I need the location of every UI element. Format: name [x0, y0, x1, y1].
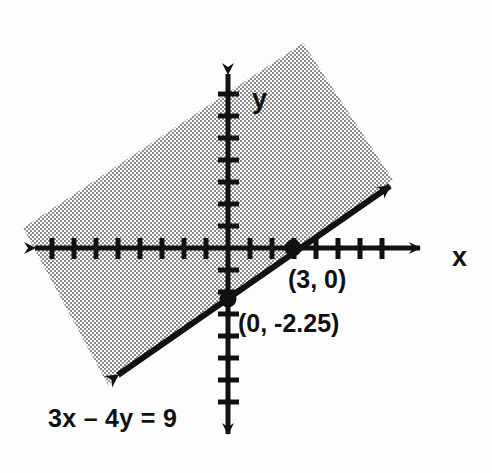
y-intercept-label: (0, -2.25): [238, 309, 339, 337]
equation-label: 3x – 4y = 9: [48, 404, 177, 432]
inequality-graph-figure: y x (3, 0) (0, -2.25) 3x – 4y = 9: [0, 0, 492, 473]
x-intercept-label: (3, 0): [288, 265, 346, 293]
point-y-intercept: [220, 291, 237, 308]
point-x-intercept: [285, 240, 302, 257]
graph-canvas: y x (3, 0) (0, -2.25) 3x – 4y = 9: [0, 0, 492, 473]
y-axis-label: y: [252, 84, 267, 114]
x-axis-label: x: [452, 242, 467, 272]
